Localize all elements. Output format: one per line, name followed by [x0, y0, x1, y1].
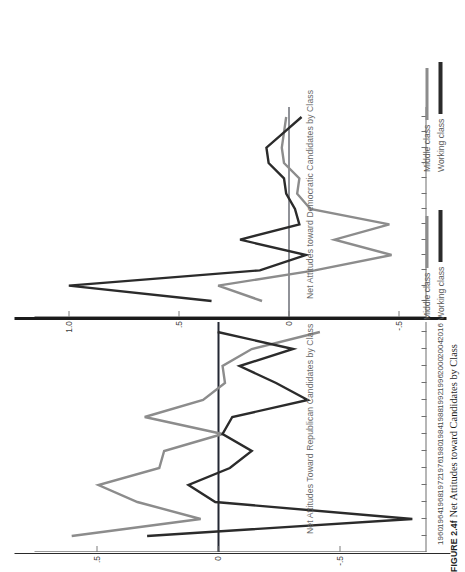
x-axis-tick-label: 1972	[435, 476, 444, 494]
x-axis-tick	[421, 535, 426, 536]
legend-label: Middle class	[421, 273, 431, 320]
figure-container: 1960196419681972197619801984198819921996…	[0, 0, 465, 572]
y-axis-tick	[96, 546, 97, 552]
legend-swatch-working-class	[438, 210, 442, 262]
x-axis-tick	[421, 518, 426, 519]
series-line-working-class	[68, 117, 305, 301]
x-axis-tick	[421, 331, 426, 332]
x-axis-tick-label: 2000	[435, 357, 444, 375]
legend-swatch-middle-class	[425, 68, 428, 120]
legend-label: Middle class	[421, 125, 431, 172]
y-axis-tick	[339, 546, 340, 552]
plot-area-democratic: 1960196419681972197619801984198819921996…	[34, 107, 426, 317]
panel-republican: 1960196419681972197619801984198819921996…	[12, 322, 436, 552]
x-axis-tick	[421, 382, 426, 383]
y-axis-tick-label: .5	[173, 321, 183, 328]
x-axis-tick	[421, 501, 426, 502]
y-axis-tick	[68, 311, 69, 317]
zero-line-democratic	[288, 107, 289, 317]
rotated-figure-wrapper: 1960196419681972197619801984198819921996…	[0, 0, 465, 572]
y-axis-tick-label: 0	[283, 321, 293, 326]
x-axis-tick-label: 1976	[435, 459, 444, 477]
y-axis-tick	[288, 311, 289, 317]
y-axis-tick-label: 1.0	[63, 321, 73, 333]
legend-label: Working class	[435, 267, 445, 320]
series-line-working-class	[147, 332, 412, 536]
legend-republican: Middle class Working class	[421, 210, 445, 320]
zero-line-republican	[217, 322, 218, 552]
y-axis-tick	[398, 311, 399, 317]
y-axis-tick-label: 0	[212, 556, 222, 561]
legend-item: Working class	[435, 210, 445, 320]
x-axis-tick	[421, 433, 426, 434]
figure-caption-text: Net Attitudes toward Candidates by Class	[447, 344, 458, 517]
legend-swatch-working-class	[438, 62, 442, 114]
x-axis-tick	[421, 399, 426, 400]
series-line-middle-class	[71, 332, 319, 536]
x-axis-tick	[421, 365, 426, 366]
figure-number: FIGURE 2.4f	[448, 520, 458, 572]
x-axis-tick	[421, 450, 426, 451]
x-axis-tick	[421, 348, 426, 349]
x-axis-tick	[421, 467, 426, 468]
x-axis-tick	[421, 484, 426, 485]
legend-swatch-middle-class	[425, 216, 428, 268]
x-axis-tick	[421, 177, 426, 178]
x-axis-tick	[421, 416, 426, 417]
x-axis-tick-label: 2016	[435, 323, 444, 341]
panel-title-democratic: Net Attitudes toward Democratic Candidat…	[304, 90, 314, 299]
x-axis-tick-label: 1996	[435, 374, 444, 392]
legend-item: Middle class	[421, 62, 431, 172]
x-axis-tick-label: 1992	[435, 391, 444, 409]
y-axis-tick	[217, 546, 218, 552]
y-axis-tick	[178, 311, 179, 317]
legend-democratic: Middle class Working class	[421, 62, 445, 172]
x-axis-tick-label: 1960	[435, 527, 444, 545]
x-axis-tick	[421, 193, 426, 194]
figure-caption: FIGURE 2.4f Net Attitudes toward Candida…	[447, 12, 465, 572]
x-axis-tick-label: 2004	[435, 340, 444, 358]
x-axis-tick-label: 1984	[435, 425, 444, 443]
x-axis-tick-label: 1968	[435, 493, 444, 511]
legend-item: Middle class	[421, 210, 431, 320]
legend-item: Working class	[435, 62, 445, 172]
x-axis-tick-label: 1988	[435, 408, 444, 426]
legend-label: Working class	[435, 119, 445, 172]
panel-title-republican: Net Attitudes Toward Republican Candidat…	[304, 324, 314, 534]
x-axis-tick-label: 1964	[435, 510, 444, 528]
y-axis-tick-label: -.5	[334, 556, 344, 566]
figure-outer-edge	[14, 553, 450, 554]
y-axis-tick-label: .5	[91, 556, 101, 563]
y-axis-tick-label: -.5	[393, 321, 403, 331]
series-layer-democratic	[34, 17, 184, 317]
plot-area-republican: 1960196419681972197619801984198819921996…	[34, 322, 426, 552]
x-axis-tick-label: 1980	[435, 442, 444, 460]
panel-democratic: 1960196419681972197619801984198819921996…	[12, 107, 436, 317]
